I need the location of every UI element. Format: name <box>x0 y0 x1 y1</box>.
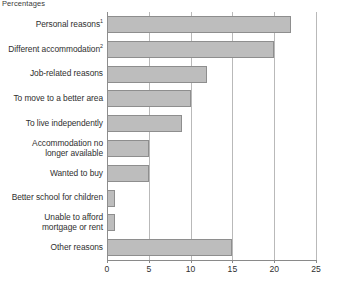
bar[interactable] <box>107 66 207 83</box>
bar-row <box>107 115 316 132</box>
category-label: To live independently <box>0 118 103 128</box>
bar[interactable] <box>107 41 274 58</box>
category-label: Job-related reasons <box>0 68 103 78</box>
bar[interactable] <box>107 140 149 157</box>
bar-row <box>107 90 316 107</box>
category-label: Better school for children <box>0 192 103 202</box>
x-tick-mark-15 <box>232 260 233 263</box>
x-tick-label-15: 15 <box>228 264 238 274</box>
x-tick-mark-25 <box>316 260 317 263</box>
bar-row <box>107 140 316 157</box>
x-tick-mark-0 <box>107 260 108 263</box>
x-tick-label-25: 25 <box>311 264 321 274</box>
bar-row <box>107 214 316 231</box>
bar-row <box>107 41 316 58</box>
x-axis-ticks: 0510152025 <box>107 260 316 282</box>
category-label: Unable to affordmortgage or rent <box>0 212 103 232</box>
chart-title: Percentages <box>2 0 45 8</box>
x-tick-label-5: 5 <box>146 264 151 274</box>
bar-row <box>107 16 316 33</box>
bar[interactable] <box>107 115 182 132</box>
bar[interactable] <box>107 214 115 231</box>
category-label: Different accommodation2 <box>0 44 103 54</box>
category-axis-labels: Personal reasons1Different accommodation… <box>0 12 103 260</box>
bar-series <box>107 12 316 260</box>
bar[interactable] <box>107 90 191 107</box>
bar[interactable] <box>107 190 115 207</box>
x-tick-mark-5 <box>149 260 150 263</box>
x-tick-label-20: 20 <box>269 264 279 274</box>
footnote-marker: 2 <box>100 43 103 49</box>
bar-row <box>107 239 316 256</box>
plot-area <box>107 12 316 260</box>
bar-row <box>107 66 316 83</box>
category-label: Other reasons <box>0 242 103 252</box>
x-tick-mark-10 <box>191 260 192 263</box>
bar[interactable] <box>107 239 232 256</box>
x-tick-mark-20 <box>274 260 275 263</box>
category-label: To move to a better area <box>0 93 103 103</box>
bar[interactable] <box>107 16 291 33</box>
bar-row <box>107 190 316 207</box>
category-label: Personal reasons1 <box>0 19 103 29</box>
gridline-25 <box>316 12 317 260</box>
bar[interactable] <box>107 165 149 182</box>
bar-row <box>107 165 316 182</box>
x-tick-label-0: 0 <box>105 264 110 274</box>
footnote-marker: 1 <box>100 18 103 24</box>
category-label: Accommodation nolonger available <box>0 138 103 158</box>
bar-chart: Percentages Personal reasons1Different a… <box>0 0 338 286</box>
x-tick-label-10: 10 <box>186 264 196 274</box>
category-label: Wanted to buy <box>0 168 103 178</box>
